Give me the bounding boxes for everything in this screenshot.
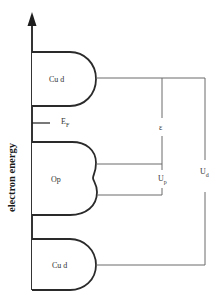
fermi-level: EF <box>32 117 70 128</box>
axis-arrow-icon <box>28 12 37 26</box>
band-label-o-p: Op <box>51 175 61 184</box>
band-cu-d-lower: Cu d <box>32 239 96 290</box>
u-p-label: Up <box>158 174 167 185</box>
band-cu-d-upper: Cu d <box>32 52 96 106</box>
band-o-p: Op <box>32 142 97 215</box>
epsilon-label: ε <box>159 123 163 132</box>
energy-diagram: electron energy Cu d EF Op Cu d <box>0 0 217 302</box>
u-d-label: Ud <box>200 167 209 178</box>
axis-title: electron energy <box>6 142 17 212</box>
band-label-cu-d-upper: Cu d <box>49 75 64 84</box>
energy-connectors <box>96 78 205 265</box>
band-label-cu-d-lower: Cu d <box>52 261 67 270</box>
fermi-label: EF <box>61 117 70 128</box>
